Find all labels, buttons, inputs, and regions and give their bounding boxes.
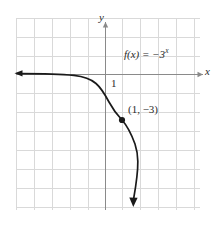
x-tick-label-1: 1	[111, 78, 117, 89]
grid-horizontal	[16, 19, 200, 208]
y-axis-label: y	[99, 12, 104, 23]
curve-left-arrow	[15, 70, 23, 76]
graph-figure: y x 1 f(x) = −3x (1, −3)	[0, 0, 220, 228]
function-curve	[15, 70, 138, 207]
function-equation-base: f(x) = −3	[124, 48, 165, 60]
function-equation-exponent: x	[165, 46, 168, 55]
point-marker-1-neg3	[119, 117, 125, 123]
function-equation-label: f(x) = −3x	[124, 47, 168, 60]
point-annotation-label: (1, −3)	[128, 104, 158, 115]
y-axis	[103, 22, 108, 210]
x-axis-label: x	[205, 66, 210, 77]
coordinate-plane	[0, 0, 220, 228]
curve-down-arrow	[129, 198, 137, 208]
